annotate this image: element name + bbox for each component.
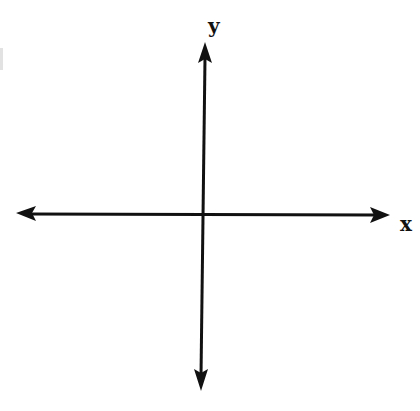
y-axis-label: y — [208, 16, 220, 36]
y-axis-line — [201, 58, 205, 376]
x-axis-label: x — [400, 214, 412, 234]
coordinate-axes-diagram: y x — [0, 0, 420, 411]
axes-graphic — [0, 0, 420, 411]
